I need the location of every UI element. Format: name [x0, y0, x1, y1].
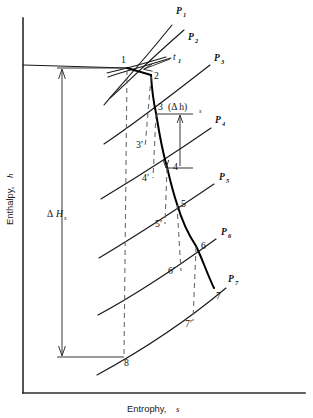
pressure-label-p4-text: P: [215, 115, 221, 125]
temperature-label-t1-sub: 1: [178, 57, 181, 64]
isentropic-line-6-to-7prime: [193, 247, 196, 321]
pressure-label-p2-text: P: [188, 32, 194, 42]
state-point-label-6prime: 6′: [168, 265, 175, 276]
constant-pressure-lines-group: [97, 25, 226, 375]
temperature-label-t1-main: t: [173, 52, 176, 62]
isentropic-dashed-lines-group: [124, 70, 196, 357]
isentropic-line-3-to-4prime: [153, 114, 156, 178]
axis-titles-group: Enthalpy, h Entrophy, s: [4, 173, 180, 414]
pressure-label-p4-sub: 4: [221, 120, 225, 127]
state-point-label-4prime: 4′: [142, 172, 149, 183]
total-drop-label-delta: Δ: [47, 208, 53, 219]
pressure-label-p7-sub: 7: [235, 279, 239, 286]
mollier-diagram-figure: P 1 P 2 P 3 P 4 P 5 P 6: [0, 0, 313, 418]
pressure-label-p2: P 2: [188, 32, 199, 44]
y-axis-title: Enthalpy,: [4, 187, 15, 225]
y-axis-title-group: Enthalpy, h: [4, 173, 15, 225]
pressure-label-p2-sub: 2: [194, 37, 199, 44]
total-drop-label-main: H: [55, 208, 64, 219]
pressure-line-p7: [97, 288, 226, 375]
pressure-label-p6: P 6: [221, 227, 232, 239]
pressure-label-p3-sub: 3: [220, 58, 225, 65]
pressure-label-p7: P 7: [228, 274, 239, 286]
total-drop-label-group: Δ H s: [47, 208, 67, 221]
state-point-label-3prime: 3′: [136, 139, 143, 150]
pressure-label-p4: P 4: [215, 115, 225, 127]
state-point-label-5prime: 5′: [155, 218, 162, 229]
state-point-label-7prime: 7′: [185, 318, 192, 329]
state-point-label-8: 8: [124, 357, 129, 368]
pressure-label-p5: P 5: [219, 172, 230, 184]
y-axis-symbol: h: [5, 173, 15, 178]
pressure-label-p3: P 3: [214, 53, 225, 65]
pressure-label-p5-sub: 5: [226, 177, 230, 184]
state-point-label-1: 1: [121, 54, 126, 65]
pressure-label-p1-sub: 1: [183, 11, 186, 18]
isentropic-line-from-1-to-8: [124, 70, 127, 357]
pressure-label-p5-text: P: [219, 172, 225, 182]
x-axis-title: Entrophy,: [127, 403, 166, 414]
state-point-label-2: 2: [154, 70, 159, 81]
state-point-label-6: 6: [201, 240, 206, 251]
stage-drop-label-main: (Δ h): [168, 101, 187, 113]
state-point-label-5: 5: [181, 198, 186, 209]
axes-group: [23, 18, 305, 393]
mollier-diagram-svg: P 1 P 2 P 3 P 4 P 5 P 6: [0, 0, 313, 418]
total-enthalpy-drop-dimension-group: [57, 68, 127, 357]
pressure-label-p1-text: P: [176, 6, 182, 16]
pressure-label-p3-text: P: [214, 53, 220, 63]
pressure-label-p6-sub: 6: [228, 232, 232, 239]
stage-drop-label-group: (Δ h) s: [168, 101, 202, 114]
t1-leader-arrow: [144, 59, 170, 69]
temperature-label-t1-group: t 1: [173, 52, 181, 64]
pressure-label-p1: P 1: [176, 6, 186, 18]
pressure-label-p6-text: P: [221, 227, 227, 237]
state-point-label-4: 4: [173, 161, 178, 172]
x-axis-title-group: Entrophy, s: [127, 403, 180, 414]
x-axis-symbol: s: [176, 404, 180, 414]
pressure-label-p7-text: P: [228, 274, 234, 284]
total-drop-label-sub: s: [64, 214, 67, 221]
state-point-label-7: 7: [216, 290, 221, 301]
state-point-label-3: 3: [158, 101, 163, 112]
pressure-line-p4: [101, 128, 211, 199]
stage-drop-label-sub: s: [199, 107, 202, 114]
